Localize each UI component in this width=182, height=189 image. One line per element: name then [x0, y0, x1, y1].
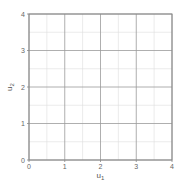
y-axis-label: u2: [5, 82, 15, 90]
y-tick-label: 3: [21, 47, 25, 54]
y-tick-label: 0: [21, 157, 25, 164]
y-tick-labels: 01234: [21, 11, 29, 164]
x-tick-label: 0: [27, 163, 31, 170]
chart: 01234 01234 u1 u2: [0, 0, 182, 189]
x-tick-label: 4: [170, 163, 174, 170]
x-tick-labels: 01234: [27, 160, 174, 170]
x-tick-label: 2: [99, 163, 103, 170]
x-tick-label: 3: [134, 163, 138, 170]
y-tick-label: 4: [21, 11, 25, 18]
x-axis-label: u1: [97, 171, 105, 181]
y-tick-label: 2: [21, 84, 25, 91]
y-tick-label: 1: [21, 120, 25, 127]
x-tick-label: 1: [63, 163, 67, 170]
major-grid: [29, 14, 172, 160]
